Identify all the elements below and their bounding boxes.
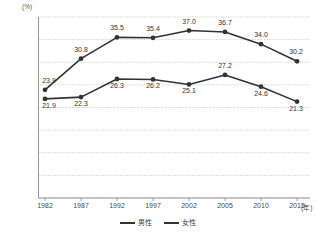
- data-point-value-label: 30.8: [74, 46, 88, 53]
- data-point-value-label: 25.1: [182, 87, 196, 94]
- data-point-value-label: 24.6: [254, 90, 268, 97]
- data-point-value-label: 27.2: [218, 62, 232, 69]
- data-point-value-label: 35.4: [146, 25, 160, 32]
- data-point-value-label: 37.0: [182, 18, 196, 25]
- data-point-value-label: 35.5: [110, 24, 124, 31]
- legend-label: 男性: [138, 219, 152, 226]
- legend-line-swatch-icon: [120, 222, 135, 224]
- data-point-value-label: 36.7: [218, 19, 232, 26]
- chart-legend: 男性女性: [0, 219, 316, 226]
- legend-label: 女性: [182, 219, 196, 226]
- data-point-value-label: 21.3: [289, 105, 303, 112]
- data-point-value-label: 30.2: [289, 48, 303, 55]
- data-point-labels: 21.922.326.326.225.127.224.621.323.930.8…: [0, 0, 316, 235]
- legend-line-swatch-icon: [164, 222, 179, 224]
- data-point-value-label: 34.0: [254, 31, 268, 38]
- data-point-value-label: 22.3: [74, 100, 88, 107]
- legend-item-female[interactable]: 女性: [164, 219, 196, 226]
- line-chart: (%) 0.05.010.015.020.025.030.035.040.0 1…: [0, 0, 316, 235]
- data-point-value-label: 26.2: [146, 82, 160, 89]
- data-point-value-label: 26.3: [110, 82, 124, 89]
- data-point-value-label: 21.9: [42, 102, 56, 109]
- data-point-value-label: 23.9: [42, 77, 56, 84]
- legend-item-male[interactable]: 男性: [120, 219, 152, 226]
